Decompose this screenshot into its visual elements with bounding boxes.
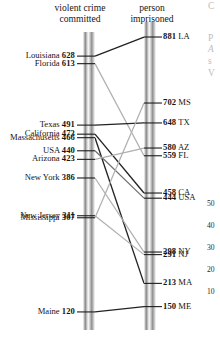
left-label-florida: Florida 613 [0, 59, 75, 68]
left-label-value: 386 [62, 172, 75, 182]
right-label-state: MS [178, 97, 190, 107]
neighbor-axis-tick-20: 20 [207, 266, 215, 274]
right-label-value: 213 [163, 277, 176, 287]
connector-lines [95, 37, 144, 312]
left-label-state: Massachusetts [10, 132, 60, 142]
left-label-maine: Maine 120 [0, 307, 75, 316]
edge-fragment-c: C [208, 1, 214, 13]
connector-nj [95, 216, 144, 255]
edge-fragment-a: A [208, 44, 214, 56]
left-label-state: Mississippi [20, 212, 59, 222]
left-label-value: 120 [62, 306, 75, 316]
right-label-ms: 702 MS [163, 98, 191, 107]
edge-fragment-v: V [208, 68, 215, 80]
left-label-state: Florida [35, 58, 60, 68]
edge-fragment-p: P [208, 33, 213, 45]
right-label-state: TX [178, 117, 189, 127]
neighbor-axis-tick-30: 30 [207, 244, 215, 252]
right-label-ma: 213 MA [163, 278, 192, 287]
left-label-massachusetts: Massachusetts 466 [0, 133, 75, 142]
right-label-tx: 648 TX [163, 118, 190, 127]
connector-la [95, 37, 144, 56]
edge-fragment-s: s [208, 56, 212, 68]
slopegraph-figure: violent crime committed person imprisone… [0, 0, 220, 340]
right-label-value: 702 [163, 97, 176, 107]
connector-me [95, 307, 144, 312]
right-label-nj: 291 NJ [163, 250, 188, 259]
right-label-state: LA [178, 31, 189, 41]
right-label-la: 881 LA [163, 32, 190, 41]
left-label-value: 423 [62, 153, 75, 163]
right-label-state: MA [178, 277, 192, 287]
connector-tx [95, 123, 144, 125]
right-label-value: 559 [163, 150, 176, 160]
right-label-fl: 559 FL [163, 151, 188, 160]
right-label-value: 881 [163, 31, 176, 41]
left-label-new-york: New York 386 [0, 173, 75, 182]
neighbor-axis-tick-50: 50 [207, 200, 215, 208]
left-label-value: 466 [62, 132, 75, 142]
right-label-value: 291 [163, 249, 176, 259]
right-label-me: 150 ME [163, 302, 191, 311]
connector-az [95, 148, 144, 159]
right-label-state: ME [178, 301, 191, 311]
left-axis-rail [83, 32, 95, 330]
right-label-value: 150 [163, 301, 176, 311]
right-label-state: FL [178, 150, 188, 160]
left-label-value: 307 [62, 212, 75, 222]
right-label-usa: 444 USA [163, 193, 196, 202]
left-label-state: Arizona [32, 153, 60, 163]
left-label-state: Maine [38, 306, 60, 316]
right-label-value: 444 [163, 192, 176, 202]
neighbor-axis-tick-10: 10 [207, 288, 215, 296]
neighbor-axis-tick-40: 40 [207, 222, 215, 230]
right-label-state: USA [178, 192, 195, 202]
left-label-arizona: Arizona 423 [0, 154, 75, 163]
left-label-mississippi: Mississippi 307 [0, 213, 75, 222]
right-label-state: NJ [178, 249, 188, 259]
connector-ny [95, 178, 144, 252]
left-label-value: 613 [62, 58, 75, 68]
left-label-state: New York [25, 172, 60, 182]
right-label-value: 648 [163, 117, 176, 127]
